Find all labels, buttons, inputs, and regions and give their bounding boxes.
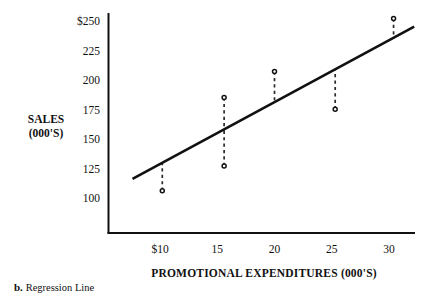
y-tick-label: 125 — [56, 163, 100, 175]
y-axis-title-line1: SALES — [10, 112, 82, 126]
caption-text: Regression Line — [26, 282, 95, 293]
y-axis-title-line2: (000'S) — [10, 126, 82, 140]
data-point-marker — [392, 16, 396, 20]
caption-marker: b. — [14, 281, 23, 293]
x-tick-label: 30 — [364, 243, 414, 255]
y-axis-title: SALES (000'S) — [10, 112, 82, 140]
x-tick-label: 15 — [192, 243, 242, 255]
plot-axes — [108, 13, 416, 234]
figure-caption: b. Regression Line — [14, 281, 94, 293]
data-point-marker — [160, 189, 164, 193]
regression-line — [133, 27, 415, 179]
x-tick-label: 20 — [250, 243, 300, 255]
y-tick-label: 225 — [56, 45, 100, 57]
x-tick-label: 25 — [307, 243, 357, 255]
data-points — [160, 16, 395, 192]
data-point-marker — [222, 96, 226, 100]
y-tick-label: 200 — [56, 74, 100, 86]
regression-line-figure: 100125150175200225$250 $1015202530 SALES… — [0, 0, 436, 301]
regression-line-stroke — [133, 27, 415, 179]
y-tick-label: 100 — [56, 192, 100, 204]
data-point-marker — [273, 70, 277, 74]
residual-connectors — [162, 18, 393, 190]
data-point-marker — [222, 164, 226, 168]
data-point-marker — [333, 107, 337, 111]
x-tick-label: $10 — [135, 243, 185, 255]
x-axis-title: PROMOTIONAL EXPENDITURES (000'S) — [108, 267, 420, 279]
y-tick-label: $250 — [56, 15, 100, 27]
